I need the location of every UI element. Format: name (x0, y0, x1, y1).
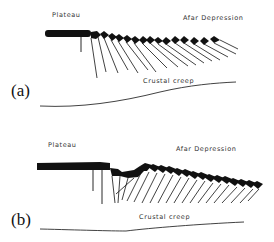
plateau-label-b: Plateau (48, 141, 77, 149)
crustal-creep-label-b: Crustal creep (139, 213, 190, 221)
creep-base-curve-a (40, 82, 236, 106)
collapse-zone-b (110, 166, 144, 178)
fault-blocks-a (91, 31, 220, 45)
panel-b: Plateau Afar Depression (11, 141, 263, 231)
plateau-slab-b (37, 162, 110, 170)
fault-blocks-b (140, 163, 263, 189)
panel-label-a: (a) (11, 81, 30, 100)
plateau-slab-a (45, 30, 91, 37)
crustal-creep-label-a: Crustal creep (143, 77, 194, 85)
panel-label-b: (b) (11, 210, 31, 229)
panel-a: Plateau Afar Depression (11, 11, 244, 106)
creep-base-curve-b (40, 222, 244, 231)
afar-depression-label-b: Afar Depression (176, 145, 237, 153)
rift-block-diagram: Plateau Afar Depression (0, 0, 274, 242)
afar-depression-label-a: Afar Depression (183, 14, 244, 22)
plateau-label-a: Plateau (52, 11, 81, 19)
collapse-faults-b (112, 176, 134, 203)
plateau-faults-b (93, 170, 102, 204)
